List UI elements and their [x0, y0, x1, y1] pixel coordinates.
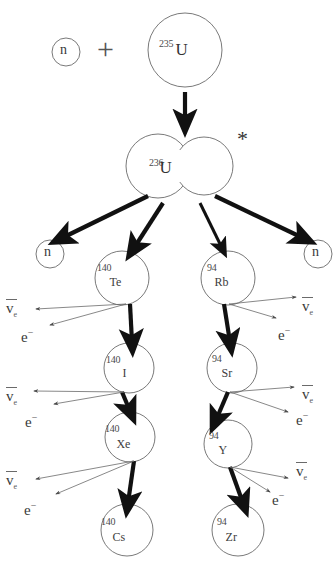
nucleus-circle-u235 [148, 13, 222, 87]
antineutrino-label-nu-y: ve [296, 463, 307, 482]
fission-to-rb-arrow [200, 203, 222, 248]
electron-symbol: e [25, 414, 32, 430]
plus-operator: + [97, 34, 114, 64]
nucleus-circle-sr94 [207, 343, 257, 393]
nucleus-circle-y94 [204, 420, 252, 468]
electron-charge-superscript: − [303, 410, 309, 421]
te-to-i-arrow [130, 304, 132, 342]
antineutrino-label-nu-te: ve [6, 300, 17, 319]
electron-symbol: e [272, 492, 279, 508]
electron-label-e-xe: e− [24, 500, 36, 519]
te-emit-nu-arrow [36, 304, 126, 309]
electron-label-e-i: e− [25, 412, 37, 431]
sr-to-y-arrow [216, 392, 228, 420]
electron-label-e-sr: e− [296, 410, 308, 429]
xe-emit-nu-arrow [36, 461, 134, 479]
electron-symbol: e [278, 327, 285, 343]
nu-glyph-wrap: v [6, 300, 14, 317]
antineutrino-label-nu-rb: ve [302, 298, 313, 317]
te-emit-e-arrow [50, 304, 126, 325]
nu-glyph-wrap: v [302, 386, 310, 403]
nu-symbol: v [302, 386, 310, 402]
nu-glyph-wrap: v [302, 298, 310, 315]
nucleus-circle-rb94 [201, 251, 255, 305]
neutron-circle-n-incident [52, 38, 80, 66]
neutrino-flavor-subscript: e [14, 482, 18, 491]
electron-charge-superscript: − [279, 490, 285, 501]
neutrino-flavor-subscript: e [310, 308, 314, 317]
fission-to-n-right-arrow [215, 196, 303, 238]
antineutrino-label-nu-xe: ve [6, 472, 17, 491]
nu-symbol: v [6, 388, 14, 404]
neutrino-flavor-subscript: e [304, 473, 308, 482]
electron-charge-superscript: − [31, 500, 37, 511]
electron-charge-superscript: − [285, 325, 291, 336]
i-emit-e-arrow [54, 392, 124, 404]
nucleus-circle-cs140 [101, 504, 153, 556]
neutron-circle-n-emitted-right [304, 240, 332, 268]
rb-to-sr-arrow [224, 304, 230, 342]
diagram-vector-layer [0, 0, 334, 574]
xe-emit-e-arrow [56, 461, 134, 494]
nu-symbol: v [302, 298, 310, 314]
sr-emit-e-arrow [230, 392, 288, 412]
electron-label-e-y: e− [272, 490, 284, 509]
nucleus-circle-te140 [95, 251, 149, 305]
nu-symbol: v [6, 472, 14, 488]
beta-emission-arrows [34, 297, 296, 494]
nu-glyph-wrap: v [296, 463, 304, 480]
xe-to-cs-arrow [128, 461, 134, 503]
nucleus-circle-zr94 [212, 504, 264, 556]
electron-label-e-rb: e− [278, 325, 290, 344]
i-emit-nu-arrow [34, 391, 124, 392]
neutrino-flavor-subscript: e [310, 396, 314, 405]
nu-symbol: v [296, 463, 304, 479]
fission-to-n-left-arrow [62, 196, 148, 238]
nucleus-circle-i140 [104, 343, 154, 393]
antineutrino-overbar [6, 299, 17, 300]
antineutrino-overbar [302, 385, 313, 386]
nucleus-circle-xe140 [105, 412, 155, 462]
antineutrino-overbar [6, 471, 17, 472]
antineutrino-overbar [302, 297, 313, 298]
electron-label-e-te: e− [21, 327, 33, 346]
electron-charge-superscript: − [28, 327, 34, 338]
fission-to-te-arrow [134, 203, 163, 248]
neutrino-flavor-subscript: e [14, 310, 18, 319]
u236-dumbbell-shape [126, 134, 233, 198]
antineutrino-label-nu-i: ve [6, 388, 17, 407]
nu-glyph-wrap: v [6, 388, 14, 405]
electron-symbol: e [24, 502, 31, 518]
antineutrino-label-nu-sr: ve [302, 386, 313, 405]
fission-diagram: nnn235U236U140Te140I140Xe140Cs94Rb94Sr94… [0, 0, 334, 574]
nucleus-circles [95, 13, 264, 556]
i-to-xe-arrow [122, 392, 130, 411]
electron-charge-superscript: − [32, 412, 38, 423]
excited-state-asterisk: * [237, 128, 248, 150]
y-to-zr-arrow [230, 467, 243, 503]
u236-overlap-mask [167, 150, 195, 182]
electron-symbol: e [21, 329, 28, 345]
rb-emit-e-arrow [229, 304, 276, 318]
antineutrino-overbar [6, 387, 17, 388]
nu-symbol: v [6, 300, 14, 316]
neutrino-flavor-subscript: e [14, 398, 18, 407]
electron-symbol: e [296, 412, 303, 428]
neutron-circle-n-emitted-left [36, 240, 64, 268]
nu-glyph-wrap: v [6, 472, 14, 489]
antineutrino-overbar [296, 462, 307, 463]
